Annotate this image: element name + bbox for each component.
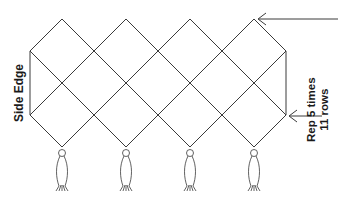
- netting-diagram: [0, 0, 340, 200]
- side-edge-label: Side Edge: [12, 64, 26, 122]
- repeat-note-line-1: Rep 5 times: [305, 77, 318, 142]
- side-edges: [30, 51, 286, 115]
- tassel-3: [184, 150, 196, 192]
- tassel-1: [56, 150, 68, 192]
- repeat-note-line-2: 11 rows: [318, 77, 331, 142]
- repeat-start-arrow: [258, 13, 338, 25]
- repeat-note: Rep 5 times 11 rows: [305, 77, 331, 142]
- diamond-lattice: [30, 19, 286, 147]
- tassel-4: [248, 150, 260, 192]
- tassel-2: [120, 150, 132, 192]
